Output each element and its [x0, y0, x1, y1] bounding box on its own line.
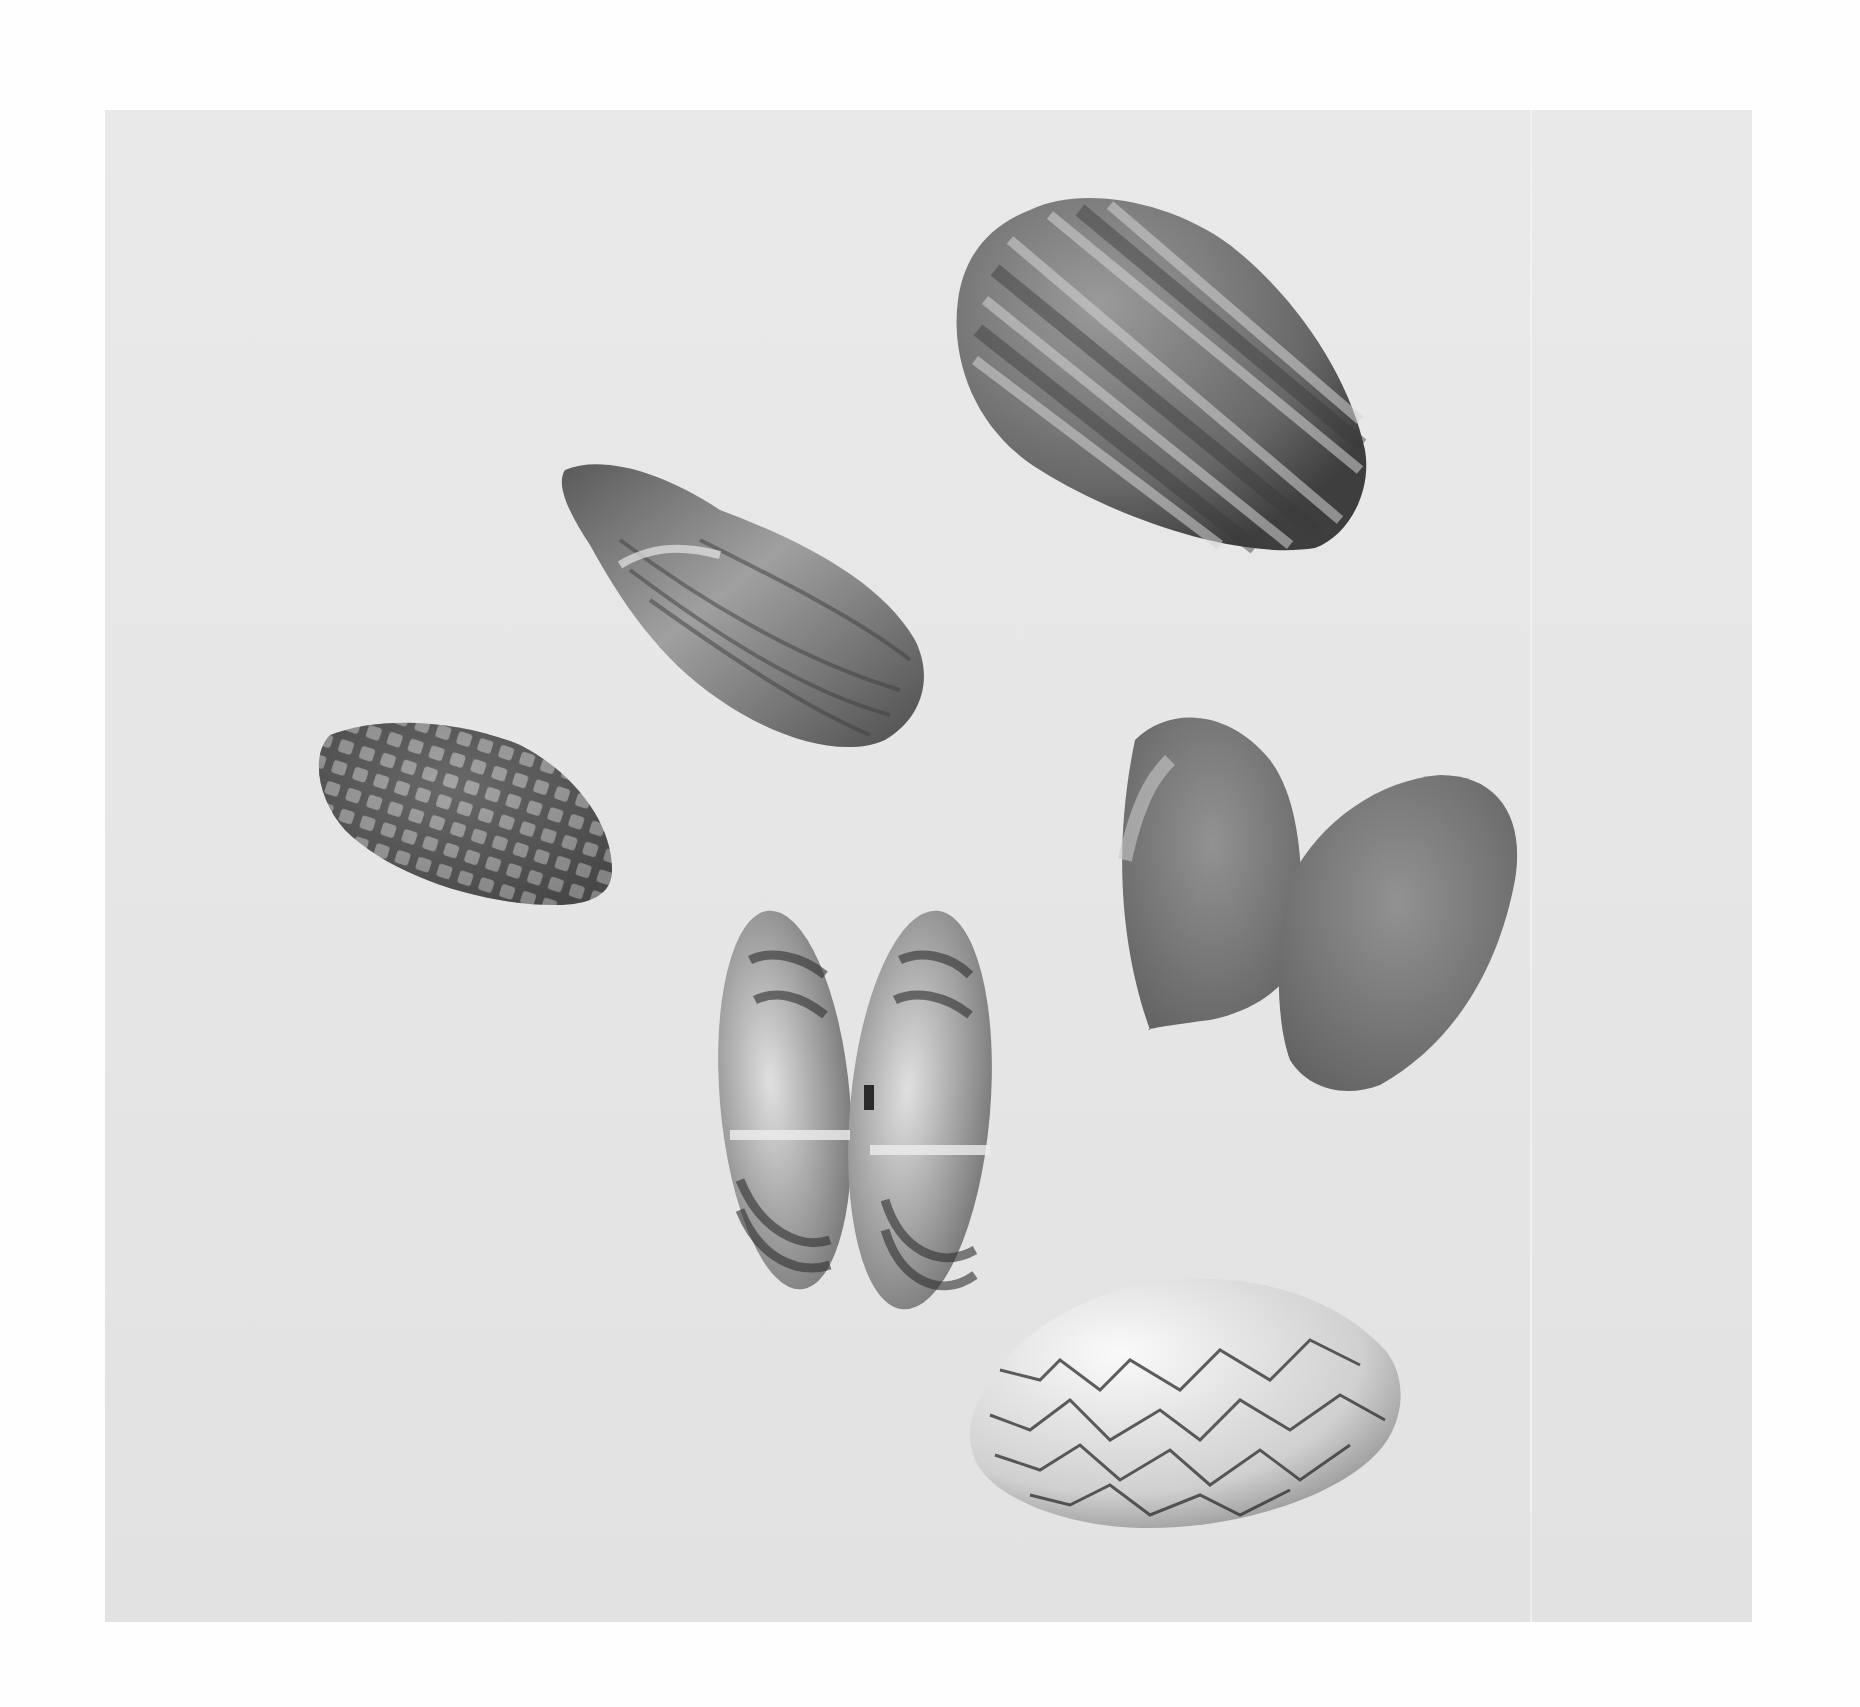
page-background: [0, 0, 1860, 1707]
shell-checkered-clam: [319, 723, 612, 905]
shell-elongate-mussel: [562, 464, 924, 747]
shell-open-bivalve-banded: [704, 905, 1007, 1316]
shell-open-bivalve-plain: [1122, 717, 1517, 1091]
shell-illustration: [0, 0, 1860, 1707]
shell-radiating-clam: [957, 198, 1367, 550]
shell-zigzag-clam: [970, 1279, 1401, 1528]
